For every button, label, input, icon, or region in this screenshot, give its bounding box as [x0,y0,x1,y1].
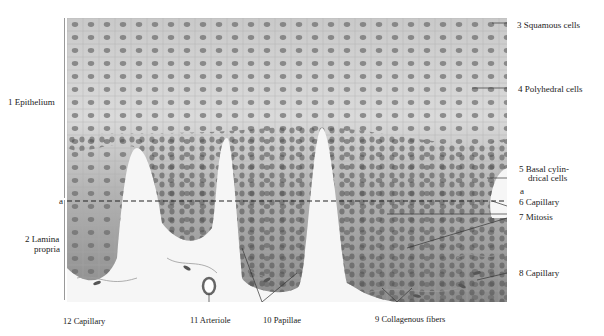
label-basal-cells-2: drical cells [528,173,567,183]
lamina-propria-bracket [64,200,68,300]
histology-illustration [67,18,507,302]
label-mitosis: 7 Mitosis [519,212,553,222]
label-epithelium: 1 Epithelium [8,97,55,107]
label-lamina-propria: 2 Lamina [25,234,59,244]
label-a-left: a [59,196,63,206]
label-collagenous-fibers: 9 Collagenous fibers [375,314,445,324]
label-arteriole: 11 Arteriole [190,315,231,325]
label-capillary-12: 12 Capillary [63,316,105,326]
label-papillae: 10 Papillae [263,315,301,325]
epithelium-bracket [64,18,68,198]
label-lamina-propria-2: propria [34,244,60,254]
label-a-right: a [520,186,524,196]
epithelium-drawing [67,18,507,302]
label-capillary-8: 8 Capillary [519,268,559,278]
label-polyhedral-cells: 4 Polyhedral cells [518,84,583,94]
label-squamous-cells: 3 Squamous cells [517,20,580,30]
label-capillary-6: 6 Capillary [519,197,559,207]
